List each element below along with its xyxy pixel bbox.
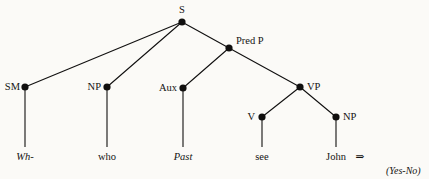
node-label-np-subject: NP bbox=[88, 81, 102, 92]
terminal-labels-group: Wh- who Past see John bbox=[16, 151, 346, 162]
yes-no-annotation: (Yes-No) bbox=[386, 165, 421, 177]
branch-lines-group bbox=[25, 22, 336, 117]
node-dot-v bbox=[258, 113, 265, 120]
node-label-vp: VP bbox=[307, 81, 321, 92]
node-label-qsm: SM bbox=[5, 81, 21, 92]
node-label-aux: Aux bbox=[159, 82, 178, 93]
branch-pred-p-to-aux bbox=[183, 48, 229, 88]
node-label-np-object: NP bbox=[343, 111, 357, 122]
syntax-tree-figure: S SM NP Pred P Aux VP V NP Wh- who Past … bbox=[0, 0, 429, 179]
node-dot-np-object bbox=[332, 113, 339, 120]
node-dot-np-subject bbox=[103, 83, 110, 90]
derivation-arrow-icon: ⇒ bbox=[356, 151, 365, 162]
node-label-v: V bbox=[247, 111, 255, 122]
branch-s-to-qsm bbox=[25, 22, 182, 87]
annotations-group: ⇒ (Yes-No) bbox=[356, 151, 422, 177]
terminal-label-see: see bbox=[255, 151, 269, 162]
node-dot-s bbox=[178, 18, 185, 25]
branch-pred-p-to-vp bbox=[229, 48, 300, 87]
node-label-s: S bbox=[179, 4, 185, 15]
terminal-label-john: John bbox=[326, 151, 347, 162]
terminal-label-past: Past bbox=[173, 151, 194, 162]
node-dot-qsm bbox=[21, 83, 28, 90]
node-dot-pred-p bbox=[225, 44, 232, 51]
node-dot-aux bbox=[179, 84, 186, 91]
node-label-pred-p: Pred P bbox=[236, 35, 264, 46]
branch-vp-to-v bbox=[262, 87, 300, 117]
node-dot-vp bbox=[296, 83, 303, 90]
node-dots-group bbox=[21, 18, 339, 120]
terminal-label-wh: Wh- bbox=[16, 151, 34, 162]
branch-s-to-pred-p bbox=[182, 22, 229, 48]
tree-diagram-canvas: S SM NP Pred P Aux VP V NP Wh- who Past … bbox=[0, 0, 429, 179]
branch-s-to-np-subject bbox=[107, 22, 182, 87]
terminal-label-who: who bbox=[98, 151, 116, 162]
